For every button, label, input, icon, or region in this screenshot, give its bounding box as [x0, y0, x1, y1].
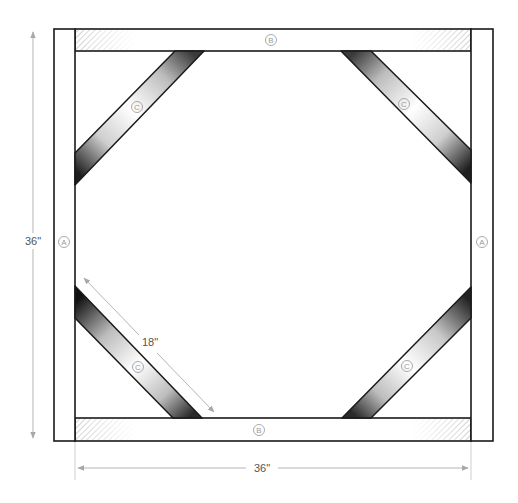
- svg-text:C: C: [134, 103, 140, 112]
- right-post-a: [471, 29, 493, 441]
- left-post-a: [54, 29, 75, 441]
- height-label: 36": [25, 235, 41, 247]
- brace-top-right-c: [341, 51, 471, 183]
- brace-length-label: 18": [142, 336, 158, 348]
- svg-text:A: A: [61, 238, 67, 247]
- svg-text:B: B: [268, 36, 273, 45]
- svg-text:C: C: [135, 363, 141, 372]
- svg-text:C: C: [404, 362, 410, 371]
- label-a-left: A: [59, 237, 70, 248]
- bottom-rail-b: [75, 418, 471, 441]
- height-dimension: 36": [22, 32, 46, 438]
- brace-top-left-c: [75, 51, 204, 185]
- brace-bottom-left-c: [75, 286, 202, 418]
- width-label: 36": [254, 462, 270, 474]
- svg-text:C: C: [401, 100, 407, 109]
- width-dimension: 36": [78, 460, 468, 476]
- label-a-right: A: [477, 237, 488, 248]
- svg-text:A: A: [479, 238, 485, 247]
- part-labels: B B A A C C C: [59, 35, 488, 436]
- frame-diagram: 36" 36": [0, 0, 518, 503]
- svg-text:B: B: [256, 426, 261, 435]
- brace-bottom-right-c: [342, 287, 471, 418]
